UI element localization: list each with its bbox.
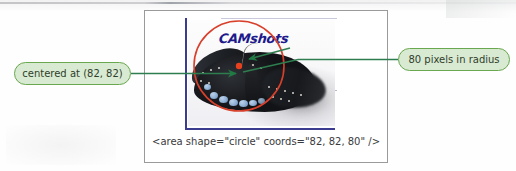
callout-center-label: centered at (82, 82) (22, 69, 122, 79)
image-preview-stage: CAMshots (185, 18, 337, 130)
callout-center[interactable]: centered at (82, 82) (14, 62, 131, 85)
hotspot-center-dot (236, 63, 242, 69)
circle-hotspot-overlay (185, 18, 337, 130)
area-tag-code: <area shape="circle" coords="82, 82, 80"… (152, 136, 384, 147)
callout-radius[interactable]: 80 pixels in radius (398, 48, 510, 71)
scan-artifact-smudge-bottom-left (6, 125, 116, 165)
callout-radius-label: 80 pixels in radius (408, 55, 499, 65)
scan-artifact-smudge-right (446, 0, 516, 18)
